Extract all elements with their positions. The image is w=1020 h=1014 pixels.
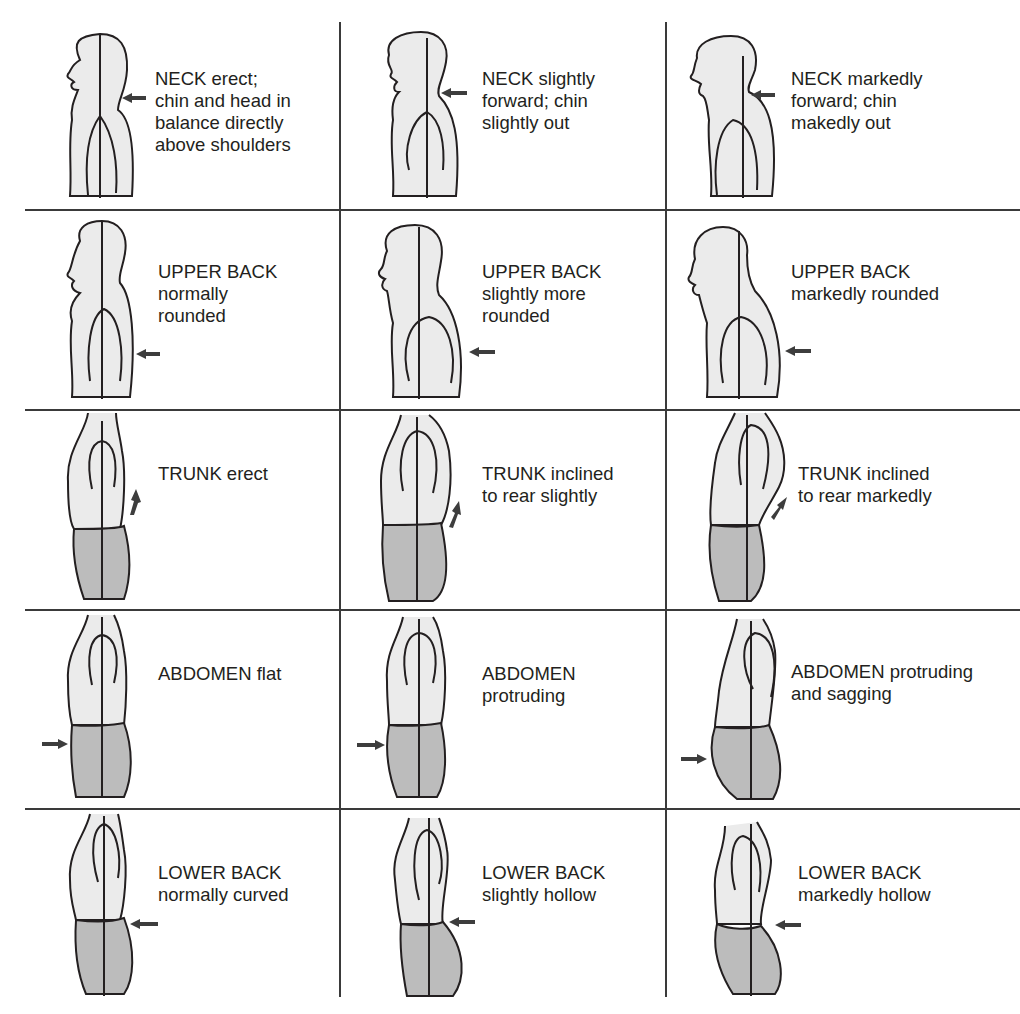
posture-label: UPPER BACK markedly rounded — [791, 261, 939, 305]
posture-label: UPPER BACK normally rounded — [158, 261, 277, 327]
cell-upper-back-markedly-rounded: UPPER BACK markedly rounded — [667, 211, 1016, 409]
cell-lower-back-normal: LOWER BACK normally curved — [0, 810, 339, 1014]
right-arrow-icon — [42, 739, 68, 749]
left-arrow-icon — [136, 349, 160, 359]
posture-label: NECK markedly forward; chin makedly out — [791, 68, 923, 134]
posture-label: ABDOMEN protruding and sagging — [791, 661, 973, 705]
abdomen-protruding-sagging-figure — [667, 611, 1016, 808]
posture-label: LOWER BACK markedly hollow — [798, 862, 931, 906]
posture-label: ABDOMEN flat — [158, 663, 281, 685]
posture-label: NECK slightly forward; chin slightly out — [482, 68, 595, 134]
left-arrow-icon — [122, 93, 146, 103]
cell-upper-back-normal: UPPER BACK normally rounded — [0, 211, 339, 409]
cell-neck-erect: NECK erect; chin and head in balance dir… — [0, 0, 339, 209]
cell-lower-back-markedly-hollow: LOWER BACK markedly hollow — [667, 810, 1016, 1014]
posture-label: UPPER BACK slightly more rounded — [482, 261, 601, 327]
trunk-erect-figure — [0, 411, 339, 609]
cell-neck-markedly-forward: NECK markedly forward; chin makedly out — [667, 0, 1016, 209]
posture-label: TRUNK inclined to rear slightly — [482, 463, 614, 507]
cell-trunk-erect: TRUNK erect — [0, 411, 339, 609]
right-arrow-icon — [681, 754, 707, 764]
cell-neck-slightly-forward: NECK slightly forward; chin slightly out — [341, 0, 665, 209]
posture-label: TRUNK inclined to rear markedly — [798, 463, 932, 507]
cell-trunk-inclined-slightly: TRUNK inclined to rear slightly — [341, 411, 665, 609]
cell-upper-back-slightly-rounded: UPPER BACK slightly more rounded — [341, 211, 665, 409]
abdomen-protruding-figure — [341, 611, 665, 808]
cell-lower-back-slightly-hollow: LOWER BACK slightly hollow — [341, 810, 665, 1014]
lower-back-slightly-hollow-figure — [341, 810, 665, 1014]
left-arrow-icon — [449, 917, 475, 927]
up-arrow-icon — [771, 497, 787, 520]
posture-label: NECK erect; chin and head in balance dir… — [155, 68, 291, 156]
left-arrow-icon — [775, 920, 801, 930]
lower-back-normal-figure — [0, 810, 339, 1014]
cell-abdomen-protruding-sagging: ABDOMEN protruding and sagging — [667, 611, 1016, 808]
left-arrow-icon — [130, 919, 158, 929]
cell-trunk-inclined-markedly: TRUNK inclined to rear markedly — [667, 411, 1016, 609]
right-arrow-icon — [357, 740, 385, 750]
upper-back-markedly-rounded-figure — [667, 211, 1016, 409]
up-arrow-icon — [130, 489, 141, 515]
posture-label: TRUNK erect — [158, 463, 268, 485]
trunk-inclined-slightly-figure — [341, 411, 665, 609]
left-arrow-icon — [441, 88, 467, 98]
left-arrow-icon — [469, 347, 495, 357]
trunk-inclined-markedly-figure — [667, 411, 1016, 609]
cell-abdomen-protruding: ABDOMEN protruding — [341, 611, 665, 808]
left-arrow-icon — [785, 346, 811, 356]
posture-label: LOWER BACK normally curved — [158, 862, 289, 906]
posture-label: ABDOMEN protruding — [482, 663, 576, 707]
up-arrow-icon — [449, 501, 461, 528]
cell-abdomen-flat: ABDOMEN flat — [0, 611, 339, 808]
abdomen-flat-figure — [0, 611, 339, 808]
lower-back-markedly-hollow-figure — [667, 810, 1016, 1014]
posture-label: LOWER BACK slightly hollow — [482, 862, 605, 906]
